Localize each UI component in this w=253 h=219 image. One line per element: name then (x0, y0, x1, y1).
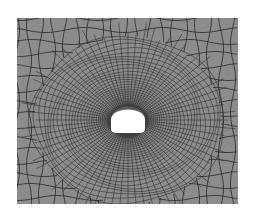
finite-element-mesh (0, 0, 253, 219)
mesh-figure (0, 0, 253, 219)
tunnel-opening (111, 110, 145, 134)
